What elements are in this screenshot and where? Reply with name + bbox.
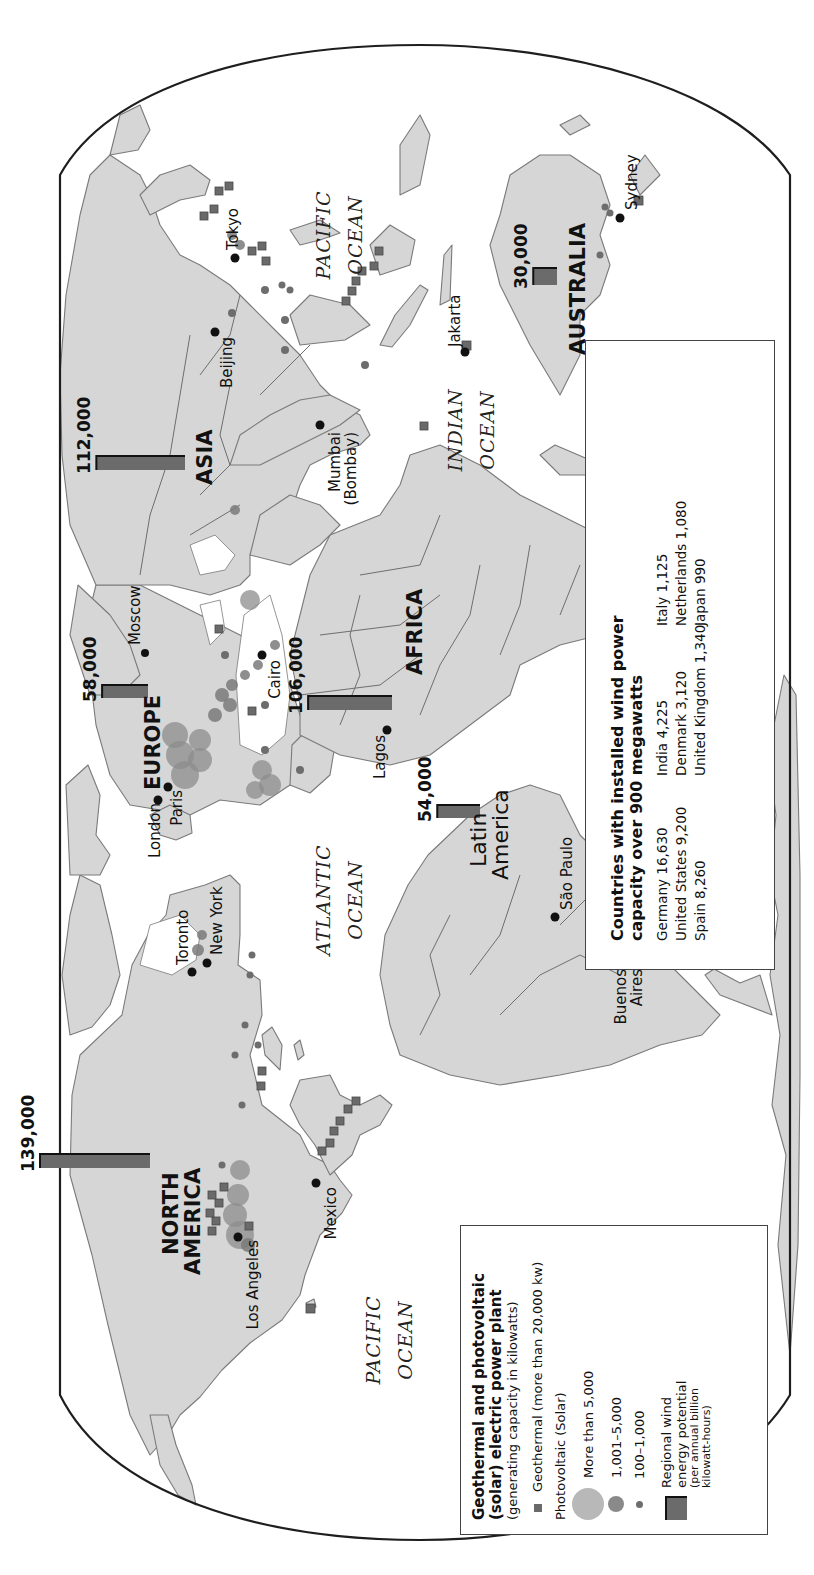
- legend-pv-small: 100–1,000: [632, 1240, 647, 1520]
- ocean-label-pacific-east-2: OCEAN: [344, 195, 366, 275]
- wind-capacity-title-2: capacity over 900 megawatts: [627, 369, 646, 941]
- wind-value-latin-america: 54,000: [415, 756, 435, 822]
- city-label: Sydney: [623, 154, 641, 210]
- ocean-label-indian-2: OCEAN: [476, 390, 498, 470]
- solar-large-symbol: [223, 1203, 247, 1227]
- legend-pv-large: More than 5,000: [572, 1240, 604, 1520]
- wind-bar-icon: [665, 1496, 687, 1520]
- solar-large-symbol: [189, 729, 211, 751]
- legend-geothermal-label: Geothermal (more than 20,000 kw): [530, 1262, 545, 1492]
- legend-title-line2: (solar) electric power plant: [488, 1240, 505, 1520]
- city-tokyo: Tokyo: [224, 208, 242, 263]
- geothermal-symbol: [420, 422, 428, 430]
- solar-large-symbol: [230, 1160, 250, 1180]
- wind-bar-australia: [533, 268, 557, 285]
- city-marker: [141, 649, 149, 657]
- city-marker: [616, 214, 625, 223]
- solar-large-symbol: [162, 722, 188, 748]
- solar-small-symbol: [296, 766, 304, 774]
- solar-medium-symbol: [192, 944, 204, 956]
- city-label: (Bombay): [342, 432, 360, 505]
- legend-wind-label-4: kilowatt-hours): [701, 1381, 713, 1488]
- region-label-asia: ASIA: [193, 429, 217, 485]
- geothermal-symbol: [215, 187, 223, 195]
- geothermal-symbol: [200, 212, 208, 220]
- geothermal-symbol: [257, 1082, 265, 1090]
- region-label-australia: AUSTRALIA: [566, 222, 590, 355]
- geothermal-symbol: [258, 242, 266, 250]
- cuba: [262, 1027, 282, 1070]
- ocean-label-atlantic-2: OCEAN: [344, 860, 366, 940]
- madagascar: [540, 445, 590, 475]
- solar-small-symbol: [221, 651, 229, 659]
- solar-small-symbol: [247, 972, 254, 979]
- wind-capacity-list: Germany 16,630 India 4,225 Italy 1,125 U…: [654, 369, 708, 941]
- wind-bar-africa: [308, 696, 392, 710]
- city-marker: [234, 1233, 243, 1242]
- sumatra: [380, 285, 428, 347]
- wind-country-italy: Italy 1,125: [654, 496, 670, 626]
- alaska-peninsula: [150, 1415, 196, 1505]
- geothermal-symbol: [318, 1147, 326, 1155]
- geothermal-symbol: [330, 1127, 338, 1135]
- wind-country-netherlands: Netherlands 1,080: [673, 496, 689, 626]
- solar-small-symbol: [228, 309, 236, 317]
- city-label: Paris: [168, 790, 186, 826]
- geothermal-symbol: [375, 247, 383, 255]
- greenland: [62, 875, 120, 1035]
- geothermal-symbol: [208, 1191, 216, 1199]
- region-label-north-america-2: AMERICA: [181, 1167, 205, 1275]
- geothermal-symbol: [336, 1117, 344, 1125]
- wind-bar-asia: [96, 456, 185, 470]
- geothermal-symbol: [352, 1097, 360, 1105]
- ocean-label-pacific-west: PACIFIC: [362, 1295, 384, 1385]
- solar-small-symbol: [242, 1022, 249, 1029]
- solar-small-symbol: [261, 746, 269, 754]
- wind-value-europe: 58,000: [80, 636, 100, 702]
- geothermal-symbol: [262, 257, 270, 265]
- wind-capacity-title-1: Countries with installed wind power: [608, 369, 627, 941]
- geothermal-symbol: [245, 1222, 253, 1230]
- power-plant-legend: Geothermal and photovoltaic (solar) elec…: [460, 1225, 768, 1535]
- solar-large-symbol: [252, 760, 272, 780]
- city-label: Beijing: [218, 337, 236, 388]
- wind-country-united-kingdom: United Kingdom 1,340: [692, 626, 708, 776]
- solar-medium-symbol: [230, 505, 240, 515]
- geothermal-symbol: [344, 1105, 352, 1113]
- city-label: Aires: [628, 969, 646, 1006]
- small-circle-icon: [636, 1501, 643, 1508]
- wind-capacity-box: Countries with installed wind power capa…: [585, 340, 775, 970]
- solar-small-symbol: [607, 210, 614, 217]
- geothermal-symbol: [352, 277, 360, 285]
- solar-small-symbol: [261, 286, 269, 294]
- city-london: London: [146, 796, 164, 858]
- solar-medium-symbol: [226, 679, 238, 691]
- city-marker: [258, 651, 267, 660]
- solar-medium-symbol: [270, 640, 280, 650]
- solar-small-symbol: [232, 1052, 239, 1059]
- city-marker: [231, 254, 240, 263]
- wind-bar-north-america: [40, 1154, 150, 1168]
- city-marker: [211, 328, 220, 337]
- wind-country-united-states: United States 9,200: [673, 776, 689, 941]
- geothermal-symbol: [215, 625, 223, 633]
- medium-circle-icon: [608, 1496, 624, 1512]
- legend-wind-label-2: energy potential: [674, 1381, 689, 1488]
- city-marker: [551, 913, 560, 922]
- legend-wind-label-1: Regional wind: [659, 1381, 674, 1488]
- legend-pv-medium: 1,001–5,000: [608, 1240, 624, 1520]
- geothermal-symbol: [215, 1199, 223, 1207]
- wind-country-japan: Japan 990: [692, 496, 708, 626]
- ocean-label-pacific-east: PACIFIC: [312, 190, 334, 280]
- antarctic-peninsula: [705, 969, 772, 1015]
- legend-geothermal: Geothermal (more than 20,000 kw): [530, 1240, 545, 1520]
- solar-small-symbol: [281, 316, 289, 324]
- geothermal-symbol: [342, 297, 350, 305]
- geothermal-symbol: [210, 205, 218, 213]
- arctic-islands: [66, 765, 110, 875]
- large-circle-icon: [572, 1488, 604, 1520]
- city-label: Mexico: [322, 1187, 340, 1239]
- geothermal-symbol: [220, 1183, 228, 1191]
- solar-small-symbol: [249, 952, 256, 959]
- geothermal-symbol: [208, 1227, 216, 1235]
